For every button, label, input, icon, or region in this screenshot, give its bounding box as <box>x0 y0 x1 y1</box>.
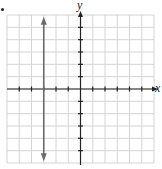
axes <box>7 11 158 165</box>
coordinate-plane <box>0 0 162 169</box>
